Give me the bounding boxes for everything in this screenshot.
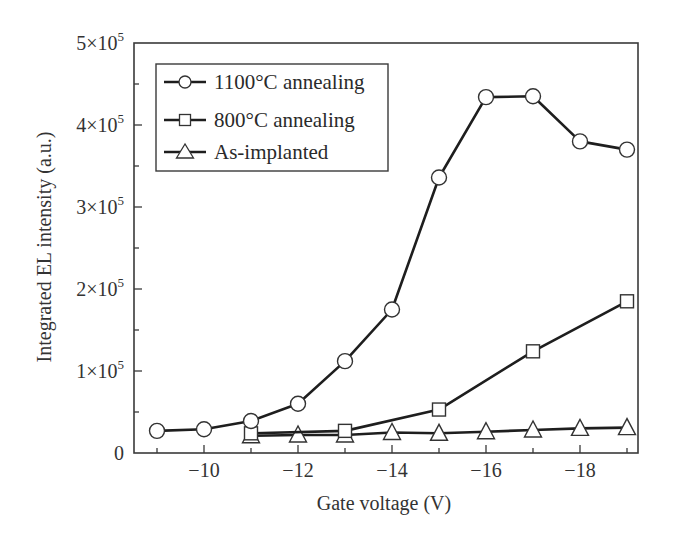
legend-square-icon [180,115,191,126]
data-point [527,345,540,358]
chart: 01×1052×1053×1054×1055×105 −10−12−14−16−… [0,0,673,538]
data-point [291,396,306,411]
data-point [620,142,635,157]
series-as-implanted [243,419,636,443]
legend-circle-icon [179,76,191,88]
data-point [433,403,446,416]
data-point [621,295,634,308]
x-axis-title: Gate voltage (V) [317,492,451,515]
data-point [573,134,588,149]
series-800c-annealing [245,295,634,440]
data-point [526,89,541,104]
legend: 1100°C annealing800°C annealingAs-implan… [156,64,388,171]
y-tick-label: 1×105 [76,357,124,382]
legend-label: As-implanted [214,140,329,164]
x-tick-labels: −10−12−14−16−18 [188,459,595,481]
x-tick-label: −18 [564,459,595,481]
data-point [339,424,352,437]
y-tick-label: 0 [114,442,124,464]
data-point [385,302,400,317]
x-tick-label: −14 [376,459,407,481]
data-point [197,422,212,437]
x-tick-label: −10 [188,459,219,481]
y-tick-labels: 01×1052×1053×1054×1055×105 [76,29,124,464]
legend-label: 1100°C annealing [214,70,365,94]
x-tick-label: −12 [282,459,313,481]
data-point [244,414,259,429]
data-point [150,423,165,438]
y-tick-label: 3×105 [76,193,124,218]
x-tick-label: −16 [470,459,501,481]
legend-label: 800°C annealing [214,108,355,132]
y-tick-label: 2×105 [76,275,124,300]
y-axis-title: Integrated EL intensity (a.u.) [33,132,56,363]
y-tick-label: 4×105 [76,111,124,136]
y-tick-label: 5×105 [76,29,124,54]
data-point [432,170,447,185]
data-point [338,354,353,369]
data-point [479,90,494,105]
